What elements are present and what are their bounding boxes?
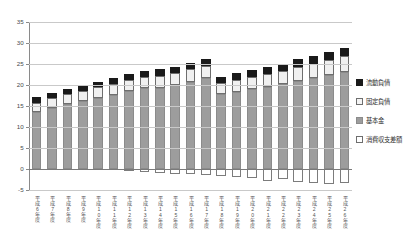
bar-segment xyxy=(309,78,319,169)
bar-segment-negative xyxy=(324,169,334,184)
legend-item-label: 固定負債 xyxy=(366,98,390,105)
bar-segment xyxy=(140,77,150,88)
y-axis-tick-label: 20 xyxy=(17,82,24,88)
bar-segment xyxy=(78,85,88,90)
bar-segment xyxy=(32,97,42,102)
black-square-swatch-icon xyxy=(356,79,363,86)
bar-segment xyxy=(309,64,319,78)
bar-segment xyxy=(278,71,288,84)
bar-segment-negative xyxy=(263,169,273,181)
x-axis-label: 平成15年度 xyxy=(172,196,177,228)
bar-segment xyxy=(309,56,319,64)
bar-segment xyxy=(293,67,303,81)
x-axis-label: 平成11年度 xyxy=(111,196,116,228)
legend-item[interactable]: 消費収支差額 xyxy=(356,135,418,144)
y-axis-tick-label: 30 xyxy=(17,40,24,46)
bar-segment xyxy=(32,103,42,112)
y-axis-tick-label: 0 xyxy=(20,166,24,172)
bar-segment xyxy=(63,94,73,104)
gridline xyxy=(29,22,352,23)
bar-segment-negative xyxy=(232,169,242,177)
bar-segment xyxy=(247,89,257,169)
bar-segment xyxy=(324,52,334,60)
bar-segment-negative xyxy=(278,169,288,179)
bar-segment xyxy=(247,77,257,89)
bar-segment xyxy=(170,73,180,85)
y-axis-tick xyxy=(26,22,29,23)
bar-segment xyxy=(124,74,134,80)
x-axis-label: 平成17年度 xyxy=(203,196,208,228)
legend-item-label: 流動負債 xyxy=(366,79,390,86)
x-axis-label: 平成10年度 xyxy=(96,196,101,228)
bar-segment xyxy=(109,78,119,84)
y-axis-tick xyxy=(26,190,29,191)
x-axis-label: 平成23年度 xyxy=(295,196,300,228)
y-axis-labels: -505101520253035 xyxy=(0,22,27,190)
bar-segment xyxy=(201,78,211,169)
y-axis-tick xyxy=(26,169,29,170)
bar-segment xyxy=(140,88,150,169)
gridline xyxy=(29,106,352,107)
x-axis-label: 平成14年度 xyxy=(157,196,162,228)
legend-item-label: 基本金 xyxy=(366,117,384,124)
gridline xyxy=(29,148,352,149)
bar-segment xyxy=(170,67,180,73)
legend-item[interactable]: 流動負債 xyxy=(356,78,418,87)
x-axis-label: 平成12年度 xyxy=(126,196,131,228)
bar-segment xyxy=(93,87,103,98)
x-axis-label: 平成19年度 xyxy=(234,196,239,228)
plot-area xyxy=(29,22,352,190)
bar-segment xyxy=(63,104,73,169)
bar-segment xyxy=(186,82,196,169)
y-axis-tick-label: 10 xyxy=(17,124,24,130)
bar-segment-negative xyxy=(216,169,226,176)
bar-segment-negative xyxy=(247,169,257,178)
bar-segment xyxy=(201,59,211,66)
y-axis-tick xyxy=(26,106,29,107)
y-axis-tick xyxy=(26,64,29,65)
bar-segment xyxy=(93,98,103,169)
x-axis-label: 平成8年度 xyxy=(65,196,70,222)
gridline xyxy=(29,190,352,191)
y-axis-tick-label: 15 xyxy=(17,103,24,109)
chart-legend: 流動負債固定負債基本金消費収支差額 xyxy=(356,78,418,154)
bar-segment xyxy=(232,73,242,80)
bar-segment xyxy=(47,93,57,98)
y-axis-tick-label: 5 xyxy=(20,145,24,151)
x-axis-label: 平成7年度 xyxy=(49,196,54,222)
bar-segment xyxy=(78,101,88,169)
stacked-bar-chart: -505101520253035 平成6年度平成7年度平成8年度平成9年度平成1… xyxy=(0,0,420,245)
x-axis-label: 平成16年度 xyxy=(188,196,193,228)
legend-item[interactable]: 固定負債 xyxy=(356,97,418,106)
bar-segment xyxy=(47,108,57,169)
bar-segment xyxy=(324,75,334,169)
x-axis-label: 平成24年度 xyxy=(311,196,316,228)
bar-segment xyxy=(63,89,73,94)
y-axis-tick-label: 35 xyxy=(17,19,24,25)
bar-segment xyxy=(155,69,165,75)
bar-segment xyxy=(340,48,350,56)
bar-segment-negative xyxy=(340,169,350,183)
x-axis-label: 平成18年度 xyxy=(219,196,224,228)
bar-segment xyxy=(155,88,165,169)
bar-segment-negative xyxy=(309,169,319,183)
x-axis-label: 平成13年度 xyxy=(142,196,147,228)
x-axis-label: 平成26年度 xyxy=(342,196,347,228)
bar-segment-negative xyxy=(293,169,303,182)
legend-item-label: 消費収支差額 xyxy=(366,136,402,143)
bar-segment xyxy=(32,112,42,169)
y-axis-tick xyxy=(26,127,29,128)
x-axis-labels: 平成6年度平成7年度平成8年度平成9年度平成10年度平成11年度平成12年度平成… xyxy=(29,196,352,244)
y-axis-tick xyxy=(26,148,29,149)
bar-segment xyxy=(340,72,350,169)
bar-segment xyxy=(293,81,303,169)
gridline xyxy=(29,43,352,44)
x-axis-label: 平成21年度 xyxy=(265,196,270,228)
x-axis-label: 平成20年度 xyxy=(249,196,254,228)
x-axis-label: 平成9年度 xyxy=(80,196,85,222)
y-axis-tick-label: -5 xyxy=(18,187,24,193)
gridline xyxy=(29,64,352,65)
white-square-swatch-icon xyxy=(356,136,363,143)
zero-axis-line xyxy=(29,169,352,170)
legend-item[interactable]: 基本金 xyxy=(356,116,418,125)
